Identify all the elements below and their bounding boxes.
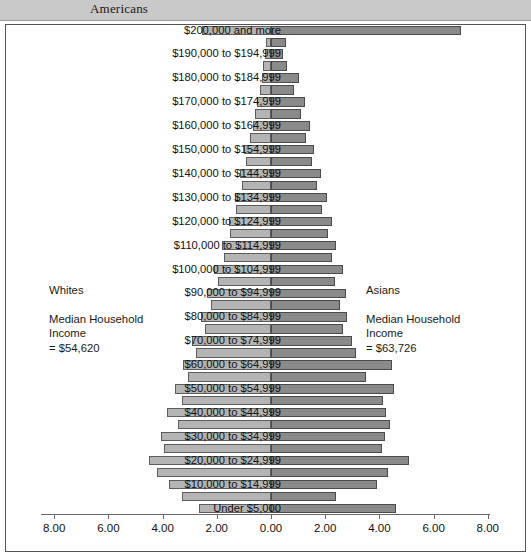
x-axis-tick: [54, 514, 55, 519]
chart-row: $160,000 to $164,999: [6, 121, 525, 133]
bar-asians: [271, 26, 461, 35]
category-label: $150,000 to $154,999: [172, 142, 284, 157]
chart-row: $120,000 to $124,999: [6, 216, 525, 228]
chart-row: $170,000 to $174,999: [6, 97, 525, 109]
header-band: Americans: [0, 0, 531, 21]
bar-asians: [271, 480, 377, 489]
category-label: $10,000 to $14,999: [185, 477, 284, 492]
x-axis-tick: [217, 514, 218, 519]
x-axis-tick: [379, 514, 380, 519]
annotation-asians-line2: Income: [366, 326, 460, 341]
bar-asians: [271, 360, 392, 369]
bar-asians: [271, 504, 396, 513]
bar-asians: [271, 384, 394, 393]
category-label: $200,000 and more: [184, 24, 284, 38]
chart-row: $10,000 to $14,999: [6, 479, 525, 491]
x-axis-tick-label: 2.00: [187, 522, 247, 534]
bar-asians: [271, 408, 386, 417]
x-axis-tick-label: 8.00: [24, 522, 84, 534]
annotation-whites-group: Whites: [49, 283, 143, 298]
x-axis-tick: [271, 514, 272, 519]
category-label: $40,000 to $44,999: [185, 405, 284, 420]
x-axis-tick-label: 4.00: [349, 522, 409, 534]
x-axis-tick: [108, 514, 109, 519]
category-label: $160,000 to $164,999: [172, 118, 284, 133]
annotation-whites-line3: = $54,620: [49, 341, 143, 356]
category-label: $30,000 to $34,999: [185, 429, 284, 444]
chart-row: $140,000 to $144,999: [6, 168, 525, 180]
bar-asians: [271, 396, 383, 405]
category-label: $60,000 to $64,999: [185, 357, 284, 372]
annotation-asians: Asians Median Household Income = $63,726: [366, 283, 460, 355]
x-axis-tick-label: 0.00: [241, 522, 301, 534]
annotation-whites: Whites Median Household Income = $54,620: [49, 283, 143, 355]
x-axis-tick-label: 6.00: [78, 522, 138, 534]
chart-row: $130,000 to $134,999: [6, 192, 525, 204]
bar-asians: [271, 468, 388, 477]
category-label: $110,000 to $114,999: [174, 238, 284, 253]
x-axis-tick: [163, 514, 164, 519]
chart-row: $100,000 to $104,999: [6, 264, 525, 276]
page-title: Americans: [90, 1, 148, 17]
chart-row: $150,000 to $154,999: [6, 145, 525, 157]
chart-row: $180,000 to $184,999: [6, 73, 525, 85]
x-axis-tick: [325, 514, 326, 519]
category-label: $70,000 to $74,999: [185, 333, 284, 348]
chart-row: $60,000 to $64,999: [6, 360, 525, 372]
category-label: $100,000 to $104,999: [172, 262, 284, 277]
chart-frame: $200,000 and more$190,000 to $194,999$18…: [5, 24, 526, 552]
category-label: $170,000 to $174,999: [172, 94, 284, 109]
chart-row: $40,000 to $44,999: [6, 407, 525, 419]
bar-asians: [271, 444, 382, 453]
chart-row: $110,000 to $114,999: [6, 240, 525, 252]
category-label: $130,000 to $134,999: [172, 190, 284, 205]
bar-asians: [271, 456, 409, 465]
annotation-asians-line1: Median Household: [366, 312, 460, 327]
chart-row: $20,000 to $24,999: [6, 455, 525, 467]
bar-asians: [271, 432, 385, 441]
annotation-whites-line1: Median Household: [49, 312, 143, 327]
category-label: $50,000 to $54,999: [185, 381, 284, 396]
x-axis: 8.006.004.002.000.002.004.006.008.00: [6, 514, 525, 551]
category-label: $180,000 to $184,999: [172, 70, 284, 85]
chart-row: $190,000 to $194,999: [6, 49, 525, 61]
chart-row: $200,000 and more: [6, 25, 525, 37]
bar-asians: [271, 420, 390, 429]
x-axis-tick-label: 8.00: [458, 522, 518, 534]
x-axis-tick: [434, 514, 435, 519]
category-label: $20,000 to $24,999: [185, 453, 284, 468]
annotation-whites-line2: Income: [49, 326, 143, 341]
annotation-asians-line3: = $63,726: [366, 341, 460, 356]
x-axis-tick-label: 2.00: [295, 522, 355, 534]
chart-row: $30,000 to $34,999: [6, 431, 525, 443]
x-axis-tick: [488, 514, 489, 519]
bar-asians: [271, 372, 366, 381]
category-label: $90,000 to $94,999: [185, 285, 284, 300]
x-axis-tick-label: 4.00: [133, 522, 193, 534]
x-axis-tick-label: 6.00: [404, 522, 464, 534]
category-label: $190,000 to $194,999: [172, 46, 284, 61]
category-label: $80,000 to $84,999: [185, 309, 284, 324]
annotation-asians-group: Asians: [366, 283, 460, 298]
category-label: $140,000 to $144,999: [172, 166, 284, 181]
chart-row: $50,000 to $54,999: [6, 384, 525, 396]
plot-area: $200,000 and more$190,000 to $194,999$18…: [6, 25, 525, 515]
category-label: $120,000 to $124,999: [172, 214, 284, 229]
